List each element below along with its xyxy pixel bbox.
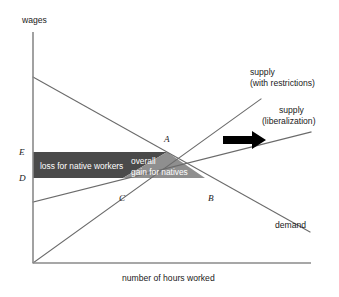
- point-label-B: B: [208, 193, 214, 203]
- y-axis-label: wages: [21, 15, 47, 25]
- supply-demand-chart: wages number of hours worked E D A B C s…: [0, 0, 339, 297]
- y-tick-label-D: D: [18, 173, 26, 183]
- gain-region-label-line2: gain for natives: [131, 167, 188, 177]
- supply-liberalization-label-line2: (liberalization): [262, 116, 316, 126]
- supply-liberalization-label-line1: supply: [279, 105, 305, 115]
- loss-region-label: loss for native workers: [40, 161, 123, 171]
- supply-restrictions-label-line1: supply: [250, 67, 276, 77]
- gain-region-label-line1: overall: [131, 156, 156, 166]
- supply-with-restrictions-curve: [33, 99, 261, 263]
- x-axis-label: number of hours worked: [122, 273, 215, 283]
- point-label-C: C: [119, 193, 126, 203]
- y-tick-label-E: E: [18, 147, 25, 157]
- supply-restrictions-label-line2: (with restrictions): [250, 78, 315, 88]
- rightward-shift-arrow-icon: [223, 131, 266, 149]
- diagram-canvas: wages number of hours worked E D A B C s…: [0, 0, 339, 297]
- demand-label: demand: [275, 220, 306, 230]
- point-label-A: A: [163, 134, 170, 144]
